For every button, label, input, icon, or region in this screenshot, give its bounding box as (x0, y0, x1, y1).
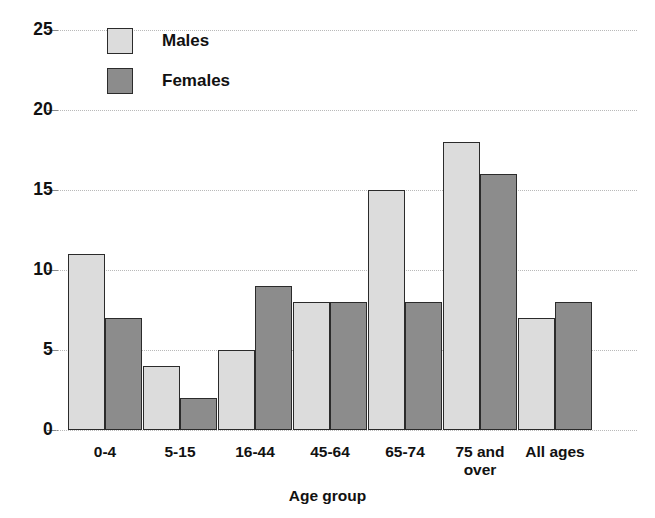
bar-females-65-74 (405, 302, 442, 430)
bar-males-45-64 (293, 302, 330, 430)
bar-males-65-74 (368, 190, 405, 430)
legend-swatch-males (107, 28, 133, 54)
gridline (56, 190, 637, 191)
plot-area: 0510152025 0-45-1516-4445-6465-7475 and … (0, 0, 655, 518)
x-tick-label: All ages (510, 443, 600, 461)
bar-males-0-4 (68, 254, 105, 430)
y-tick-label: 10 (7, 261, 53, 279)
y-tick-label: 20 (7, 101, 53, 119)
legend-swatch-females (107, 68, 133, 94)
gridline (56, 270, 637, 271)
bar-females-0-4 (105, 318, 142, 430)
bar-females-75-and-over (480, 174, 517, 430)
gridline (56, 110, 637, 111)
bar-females-45-64 (330, 302, 367, 430)
y-tick-label: 5 (7, 341, 53, 359)
bar-males-16-44 (218, 350, 255, 430)
y-tick-label: 0 (7, 421, 53, 439)
bar-males-75-and-over (443, 142, 480, 430)
gridline (56, 30, 637, 31)
legend-label-females: Females (162, 71, 230, 91)
bar-females-16-44 (255, 286, 292, 430)
bar-females-all-ages (555, 302, 592, 430)
x-axis-title: Age group (0, 487, 655, 505)
bar-females-5-15 (180, 398, 217, 430)
y-tick-label: 15 (7, 181, 53, 199)
legend-label-males: Males (162, 31, 209, 51)
bar-chart: 0510152025 0-45-1516-4445-6465-7475 and … (0, 0, 655, 518)
y-tick-label: 25 (7, 21, 53, 39)
bar-males-all-ages (518, 318, 555, 430)
axis-baseline (56, 430, 637, 431)
bar-males-5-15 (143, 366, 180, 430)
